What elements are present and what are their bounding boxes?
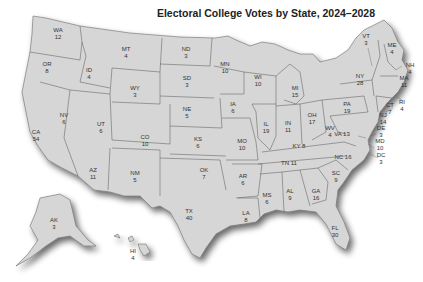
state-abbr: WA: [53, 27, 62, 33]
contiguous-us: [22, 16, 408, 258]
state-votes: 40: [186, 215, 193, 221]
state-votes: 11: [90, 174, 97, 180]
state-abbr: DC: [377, 152, 386, 158]
state-votes: 4: [400, 106, 404, 112]
state-votes: 11: [285, 127, 292, 133]
state-abbr: NJ: [379, 112, 386, 118]
state-votes: 10: [222, 68, 229, 74]
state-abbr: CO: [141, 134, 150, 140]
state-abbr: NH: [406, 62, 415, 68]
state-votes: 11: [401, 82, 408, 88]
state-abbr: HI: [130, 248, 136, 254]
state-label-nj: NJ14: [379, 112, 387, 125]
state-abbr: WY: [130, 85, 140, 91]
state-votes: 10: [377, 145, 384, 151]
state-abbr: RI: [399, 99, 405, 105]
state-label-ga: GA16: [312, 188, 321, 201]
state-label-ny: NY28: [356, 73, 364, 86]
state-abbr: LA: [242, 210, 249, 216]
state-label-nc: NC 16: [334, 154, 352, 160]
state-abbr: KS: [194, 136, 202, 142]
state-abbr: CT: [386, 102, 394, 108]
state-votes: 19: [263, 128, 270, 134]
state-abbr: MA: [400, 75, 409, 81]
state-votes: 17: [309, 119, 316, 125]
state-votes: 10: [239, 145, 246, 151]
state-abbr: AR: [239, 173, 248, 179]
state-votes: 12: [55, 34, 62, 40]
state-abbr-votes: VA 13: [334, 131, 350, 137]
state-abbr: TX: [185, 208, 193, 214]
state-votes: 30: [332, 232, 339, 238]
state-label-oh: OH17: [308, 112, 317, 125]
state-label-ca: CA54: [32, 129, 40, 142]
state-votes: 54: [33, 136, 40, 142]
state-label-tx: TX40: [185, 208, 193, 221]
state-abbr: ME: [388, 42, 397, 48]
state-abbr: NY: [356, 73, 364, 79]
state-abbr: NE: [183, 106, 191, 112]
state-votes: 16: [313, 195, 320, 201]
state-abbr: MS: [263, 192, 272, 198]
state-label-in: IN11: [285, 120, 292, 133]
state-abbr: OH: [308, 112, 317, 118]
state-abbr: MO: [237, 138, 247, 144]
state-label-tn: TN 11: [281, 160, 298, 166]
state-label-mi: MI15: [292, 85, 299, 98]
state-abbr: VT: [362, 33, 370, 39]
state-abbr-votes: NC 16: [334, 154, 352, 160]
state-votes: 3: [379, 159, 383, 165]
state-abbr: GA: [312, 188, 321, 194]
state-abbr: IN: [285, 120, 291, 126]
state-abbr: OK: [200, 167, 209, 173]
state-abbr: DE: [377, 125, 385, 131]
state-label-ma: MA11: [400, 75, 409, 88]
state-abbr: PA: [343, 101, 351, 107]
state-votes: 4: [408, 69, 412, 75]
state-abbr: WI: [254, 74, 262, 80]
state-label-fl: FL30: [331, 225, 339, 238]
state-abbr: NV: [60, 112, 68, 118]
state-abbr: SD: [183, 75, 192, 81]
state-label-de: DE3: [377, 125, 385, 138]
state-label-pa: PA19: [343, 101, 351, 114]
state-votes: 4: [131, 255, 135, 261]
state-abbr: ID: [86, 67, 93, 73]
state-label-va: VA 13: [334, 131, 350, 137]
state-abbr: FL: [331, 225, 339, 231]
state-abbr: OR: [43, 61, 53, 67]
state-label-md: MD10: [375, 138, 385, 151]
state-abbr: ND: [182, 46, 191, 52]
state-label-ri: RI4: [399, 99, 405, 112]
state-abbr-votes: KY 8: [293, 143, 307, 149]
state-label-wa: WA12: [53, 27, 62, 40]
state-abbr: AL: [286, 188, 294, 194]
state-abbr: WV: [325, 125, 335, 131]
state-abbr: AK: [50, 217, 58, 223]
state-abbr: SC: [332, 170, 341, 176]
state-label-ky: KY 8: [293, 143, 307, 149]
state-abbr: CA: [32, 129, 40, 135]
state-votes: 15: [292, 92, 299, 98]
state-label-wi: WI10: [254, 74, 262, 87]
state-abbr: IA: [230, 101, 236, 107]
state-abbr: MD: [375, 138, 385, 144]
state-abbr: MN: [220, 61, 229, 67]
state-label-mn: MN10: [220, 61, 229, 74]
state-votes: 7: [388, 109, 392, 115]
state-votes: 10: [255, 81, 262, 87]
state-abbr: UT: [97, 121, 105, 127]
state-abbr: MI: [292, 85, 299, 91]
state-label-hi: HI4: [130, 248, 136, 261]
state-abbr-votes: TN 11: [281, 160, 298, 166]
state-votes: 19: [344, 108, 351, 114]
state-abbr: MT: [122, 46, 131, 52]
state-label-dc: DC3: [377, 152, 386, 165]
state-votes: 10: [142, 141, 149, 147]
alaska: [16, 194, 96, 266]
state-abbr: NM: [130, 170, 139, 176]
state-votes: 28: [357, 80, 364, 86]
state-label-ct: CT7: [386, 102, 394, 115]
state-abbr: AZ: [89, 167, 97, 173]
state-label-az: AZ11: [89, 167, 97, 180]
